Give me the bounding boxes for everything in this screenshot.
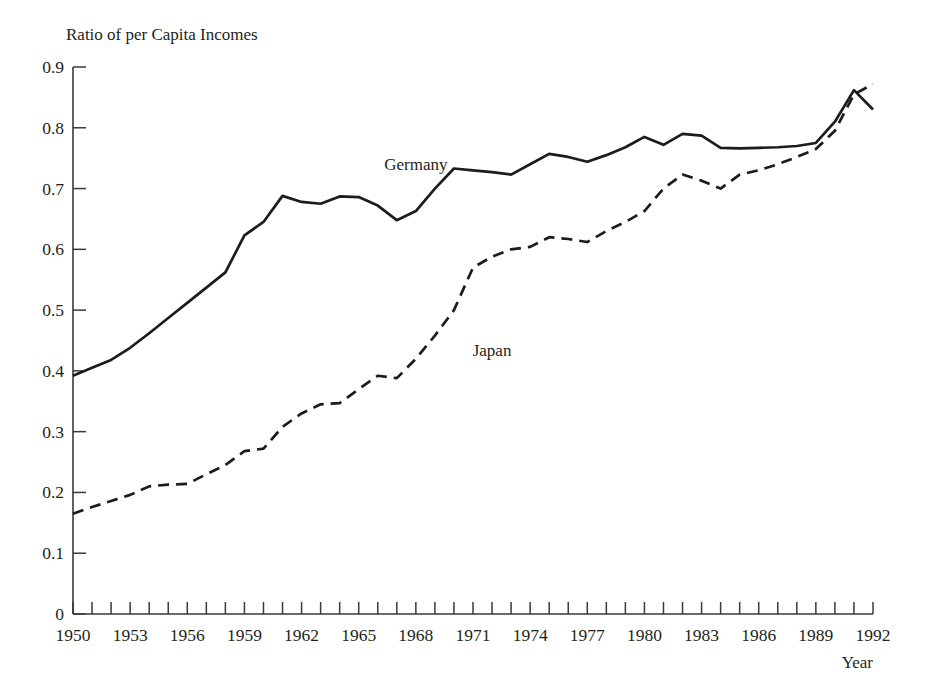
- y-tick-label: 0.4: [42, 361, 64, 381]
- y-tick-label: 0.6: [42, 239, 64, 259]
- series-label-japan: Japan: [473, 341, 512, 360]
- x-tick-label: 1980: [627, 625, 662, 645]
- line-chart: Ratio of per Capita Incomes 00.10.20.30.…: [0, 0, 938, 694]
- y-tick-label: 0.5: [42, 300, 64, 320]
- y-tick-label: 0.7: [42, 179, 64, 199]
- series-line-germany: [73, 90, 873, 376]
- x-tick-label: 1986: [741, 625, 776, 645]
- y-tick-label: 0.9: [42, 57, 64, 77]
- x-tick-label: 1971: [456, 625, 491, 645]
- x-tick-label: 1968: [398, 625, 433, 645]
- x-tick-label: 1950: [56, 625, 91, 645]
- y-tick-label: 0.1: [42, 543, 64, 563]
- x-tick-label: 1953: [113, 625, 148, 645]
- x-tick-label: 1977: [570, 625, 605, 645]
- x-tick-label: 1956: [170, 625, 205, 645]
- x-tick-label: 1974: [513, 625, 548, 645]
- series-annotations: GermanyJapan: [384, 155, 512, 359]
- x-tick-label: 1983: [684, 625, 719, 645]
- x-tick-label: 1992: [856, 625, 891, 645]
- x-tick-label: 1989: [798, 625, 833, 645]
- x-axis-ticks: 1950195319561959196219651968197119741977…: [56, 602, 891, 645]
- x-axis-title: Year: [842, 653, 874, 672]
- chart-title: Ratio of per Capita Incomes: [66, 25, 258, 44]
- y-tick-label: 0.8: [42, 118, 64, 138]
- x-tick-label: 1959: [227, 625, 262, 645]
- y-tick-label: 0: [55, 604, 64, 624]
- series-label-germany: Germany: [384, 155, 448, 174]
- x-tick-label: 1962: [284, 625, 319, 645]
- chart-figure: Ratio of per Capita Incomes 00.10.20.30.…: [0, 0, 938, 694]
- y-axis-ticks: 00.10.20.30.40.50.60.70.80.9: [42, 57, 86, 624]
- y-tick-label: 0.2: [42, 482, 64, 502]
- x-tick-label: 1965: [341, 625, 376, 645]
- data-series-group: [73, 84, 873, 514]
- y-tick-label: 0.3: [42, 422, 64, 442]
